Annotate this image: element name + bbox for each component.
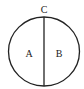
label-a: A <box>25 48 33 59</box>
label-b: B <box>56 48 63 59</box>
label-c: C <box>41 4 48 15</box>
diagram-canvas: C A B <box>0 0 84 89</box>
